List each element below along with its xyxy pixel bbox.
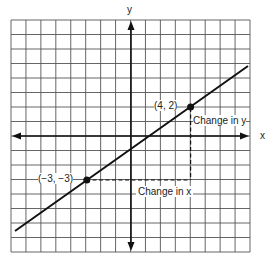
point-label-4-2: (4, 2) (154, 100, 177, 111)
y-axis-label: y (127, 4, 132, 15)
coordinate-plane (0, 0, 273, 259)
point-neg3-neg3 (83, 177, 90, 184)
x-axis-right-arrow-icon (240, 133, 249, 140)
change-in-x-label: Change in x (136, 186, 193, 197)
point-label-neg3-neg3: (−3, −3) (38, 173, 73, 184)
x-axis-label: x (260, 130, 265, 141)
point-4-2 (187, 104, 194, 111)
x-axis-left-arrow-icon (12, 133, 21, 140)
y-axis-down-arrow-icon (128, 242, 135, 251)
change-in-y-label: Change in y (193, 115, 246, 126)
y-axis-up-arrow-icon (128, 21, 135, 30)
